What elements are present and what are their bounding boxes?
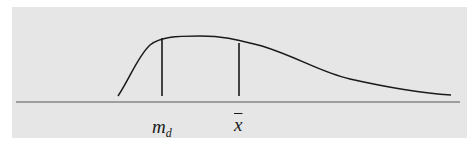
median-label-main: m [152, 116, 166, 137]
skewed-distribution-curve [118, 36, 451, 96]
median-label-subscript: d [166, 126, 172, 140]
median-label: md [152, 117, 172, 139]
mean-label: x [234, 115, 242, 134]
mean-label-xbar: x [234, 114, 242, 135]
